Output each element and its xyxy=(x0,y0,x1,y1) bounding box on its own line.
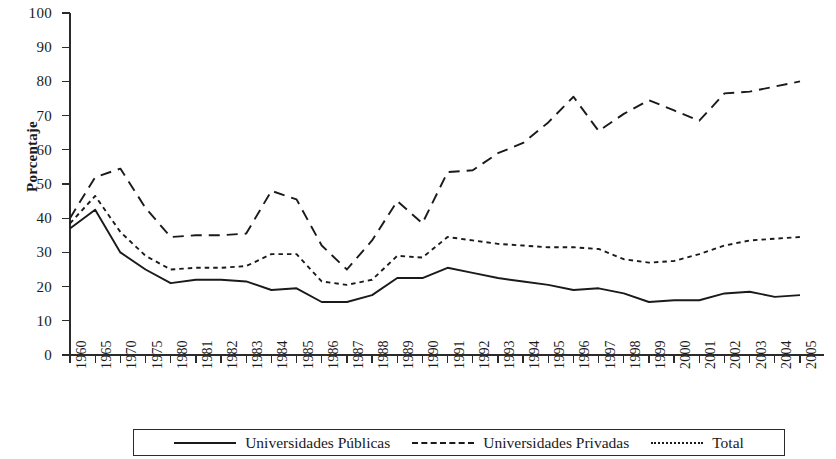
legend-item-label: Total xyxy=(712,434,744,452)
legend-item: Total xyxy=(651,434,744,452)
legend-item-label: Universidades Públicas xyxy=(245,434,390,452)
legend-swatch-dotted-line xyxy=(651,442,703,444)
axes xyxy=(62,13,824,363)
plot-area xyxy=(0,0,836,459)
legend-item: Universidades Públicas xyxy=(174,434,390,452)
series-line-total xyxy=(70,196,800,285)
data-series-group xyxy=(70,81,800,302)
chart-legend: Universidades PúblicasUniversidades Priv… xyxy=(133,429,785,456)
line-chart: Porcentaje 1009080706050403020100 196019… xyxy=(0,0,836,459)
series-line-universidades-privadas xyxy=(70,81,800,269)
legend-item: Universidades Privadas xyxy=(412,434,629,452)
legend-swatch-solid-line xyxy=(174,442,236,444)
legend-item-label: Universidades Privadas xyxy=(483,434,629,452)
x-axis-ticks xyxy=(70,355,800,363)
y-axis-ticks xyxy=(62,13,70,355)
legend-swatch-dashed-line xyxy=(412,442,474,444)
